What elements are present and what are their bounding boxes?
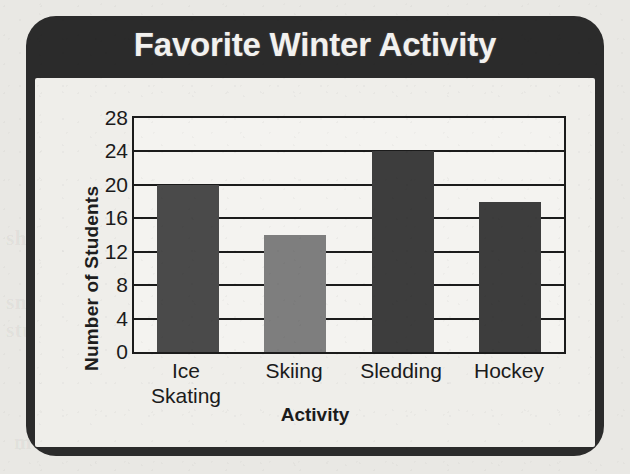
y-tick-label-16: 16: [86, 206, 128, 230]
x-tick-label-line: Skiing: [240, 358, 348, 383]
y-tick-label-0: 0: [86, 340, 128, 364]
x-tick-label-line: Ice: [132, 358, 240, 383]
chart-body: Number of Students 0481216202428 IceSkat…: [35, 78, 595, 447]
x-tick-label-sledding: Sledding: [347, 358, 455, 383]
bar-sledding: [372, 151, 434, 352]
y-tick-label-20: 20: [86, 173, 128, 197]
y-tick-label-24: 24: [86, 139, 128, 163]
y-tick-label-28: 28: [86, 106, 128, 130]
y-tick-label-12: 12: [86, 240, 128, 264]
x-tick-label-line: Sledding: [347, 358, 455, 383]
x-tick-label-ice-skating: IceSkating: [132, 358, 240, 408]
x-axis-title: Activity: [35, 404, 595, 426]
y-tick-label-4: 4: [86, 307, 128, 331]
plot-area: [132, 116, 566, 354]
bar-ice-skating: [157, 185, 219, 352]
x-tick-label-skiing: Skiing: [240, 358, 348, 383]
bar-skiing: [264, 235, 326, 352]
x-tick-label-line: Hockey: [455, 358, 563, 383]
y-axis-tick-labels: 0481216202428: [82, 116, 128, 354]
bar-hockey: [479, 202, 541, 352]
x-tick-label-hockey: Hockey: [455, 358, 563, 383]
y-tick-label-8: 8: [86, 273, 128, 297]
bars: [134, 118, 564, 352]
chart-card: Favorite Winter Activity Number of Stude…: [26, 16, 604, 456]
chart-title: Favorite Winter Activity: [26, 16, 604, 78]
